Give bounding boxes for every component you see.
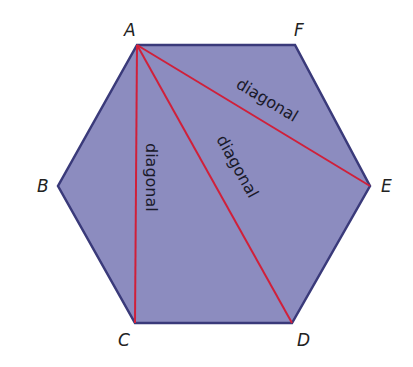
vertex-label-a: A	[123, 20, 136, 40]
hexagon-diagram: A F B E C D diagonal diagonal diagonal	[0, 0, 413, 367]
vertex-label-d: D	[297, 330, 310, 350]
vertex-label-f: F	[294, 20, 304, 40]
diagonal-label-ac: diagonal	[142, 143, 161, 212]
vertex-label-c: C	[118, 330, 130, 350]
vertex-label-e: E	[381, 176, 392, 196]
vertex-label-b: B	[37, 176, 49, 196]
